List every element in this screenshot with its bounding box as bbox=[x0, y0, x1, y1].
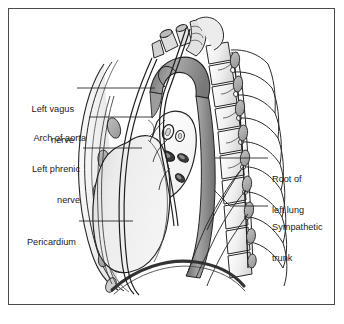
label-left-phrenic-nerve-line1: Left phrenic bbox=[0, 164, 80, 174]
label-sympathetic-trunk: Sympathetic trunk bbox=[272, 201, 342, 284]
label-pericardium-line1: Pericardium bbox=[0, 237, 76, 247]
label-root-of-left-lung-line1: Root of bbox=[272, 174, 342, 184]
label-left-phrenic-nerve-line2: nerve bbox=[0, 195, 80, 205]
anatomy-figure: Left vagus nerve Arch of aorta Left phre… bbox=[0, 0, 344, 324]
label-left-phrenic-nerve: Left phrenic nerve bbox=[0, 143, 80, 226]
label-arch-of-aorta-line1: Arch of aorta bbox=[0, 133, 86, 143]
label-sympathetic-trunk-line1: Sympathetic bbox=[272, 222, 342, 232]
label-pericardium: Pericardium bbox=[0, 216, 76, 268]
label-sympathetic-trunk-line2: trunk bbox=[272, 253, 342, 263]
